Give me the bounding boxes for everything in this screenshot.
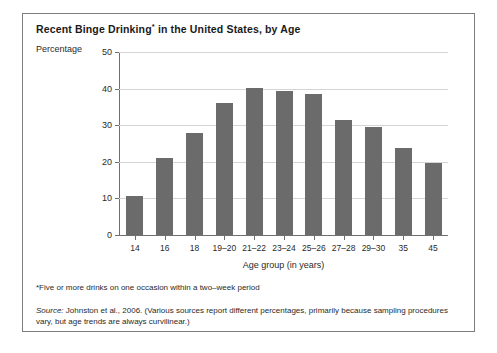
x-axis-tick (135, 236, 136, 240)
x-axis-tick-label: 18 (190, 243, 199, 253)
y-axis-tick-label: 20 (102, 157, 112, 167)
y-axis-line (119, 52, 120, 236)
bar (305, 94, 322, 235)
x-axis-tick-label: 45 (428, 243, 437, 253)
bar (395, 148, 412, 235)
y-axis-tick (115, 89, 119, 90)
x-axis-tick-label: 25–26 (302, 243, 326, 253)
x-axis-tick (165, 236, 166, 240)
bar (246, 88, 263, 235)
y-axis-tick-label: 0 (107, 230, 112, 240)
bar (335, 120, 352, 235)
page-title: Recent Binge Drinking* in the United Sta… (36, 23, 301, 35)
figure-notes: *Five or more drinks on one occasion wit… (36, 282, 461, 328)
y-axis-tick (115, 235, 119, 236)
figure-footnote: *Five or more drinks on one occasion wit… (36, 282, 461, 294)
gridline (119, 52, 448, 53)
figure-source-note: Source: Johnston et al., 2006. (Various … (36, 305, 461, 328)
bar (156, 158, 173, 235)
x-axis-tick (314, 236, 315, 240)
y-axis-tick-label: 50 (102, 47, 112, 57)
bar (365, 127, 382, 235)
bar-chart: Percentage 01020304050 14161819–2021–222… (36, 44, 461, 279)
x-axis-tick-label: 14 (130, 243, 139, 253)
x-axis-tick-label: 23–24 (272, 243, 296, 253)
y-axis-tick-label: 40 (102, 84, 112, 94)
x-axis-tick-label: 35 (399, 243, 408, 253)
x-axis-tick-label: 19–20 (213, 243, 237, 253)
bar (186, 133, 203, 235)
x-axis-tick (373, 236, 374, 240)
x-axis-tick-label: 27–28 (332, 243, 356, 253)
figure-title-main: Recent Binge Drinking (36, 23, 152, 35)
y-axis-tick-label: 30 (102, 120, 112, 130)
x-axis-tick (224, 236, 225, 240)
source-text: Johnston et al., 2006. (Various sources … (36, 306, 448, 327)
y-axis-tick (115, 162, 119, 163)
y-axis-tick (115, 125, 119, 126)
plot-area: 01020304050 14161819–2021–2223–2425–2627… (119, 52, 448, 236)
bar (216, 103, 233, 235)
x-axis-tick-label: 21–22 (242, 243, 266, 253)
x-axis-tick (403, 236, 404, 240)
source-label: Source: (36, 306, 64, 315)
x-axis-tick (344, 236, 345, 240)
x-axis-tick (254, 236, 255, 240)
bar (276, 91, 293, 235)
bar (126, 196, 143, 235)
x-axis-tick (284, 236, 285, 240)
bar (425, 163, 442, 235)
figure-title-rest: in the United States, by Age (155, 23, 301, 35)
x-axis-tick (433, 236, 434, 240)
figure-frame: Recent Binge Drinking* in the United Sta… (22, 13, 475, 332)
y-axis-tick (115, 52, 119, 53)
y-axis-title: Percentage (36, 44, 82, 54)
y-axis-tick-label: 10 (102, 193, 112, 203)
x-axis-tick-label: 29–30 (362, 243, 386, 253)
y-axis-tick (115, 198, 119, 199)
x-axis-tick-label: 16 (160, 243, 169, 253)
gridline (119, 89, 448, 90)
x-axis-tick (195, 236, 196, 240)
x-axis-title: Age group (in years) (119, 260, 448, 270)
